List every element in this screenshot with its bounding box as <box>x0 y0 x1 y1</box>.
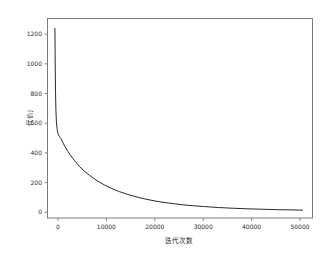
chart-figure: 0 200 400 600 800 1000 1200 0 10000 2000… <box>0 0 332 264</box>
y-tick-label: 800 <box>31 90 43 97</box>
y-tick-label: 1000 <box>27 60 42 67</box>
y-tick-label: 0 <box>38 208 42 215</box>
y-tick-label: 400 <box>31 149 43 156</box>
x-axis-title: 迭代次数 <box>165 236 193 245</box>
x-tick-label: 10000 <box>97 223 116 230</box>
x-tick-label: 50000 <box>290 223 309 230</box>
x-tick-label: 20000 <box>145 223 164 230</box>
y-axis-title: 代价J <box>25 110 34 126</box>
y-tick-label: 1200 <box>27 30 42 37</box>
convergence-line-chart: 0 200 400 600 800 1000 1200 0 10000 2000… <box>0 0 332 264</box>
figure-background <box>0 0 332 264</box>
x-tick-label: 0 <box>56 223 60 230</box>
x-tick-label: 40000 <box>242 223 261 230</box>
x-tick-label: 30000 <box>194 223 213 230</box>
y-tick-label: 200 <box>31 179 43 186</box>
